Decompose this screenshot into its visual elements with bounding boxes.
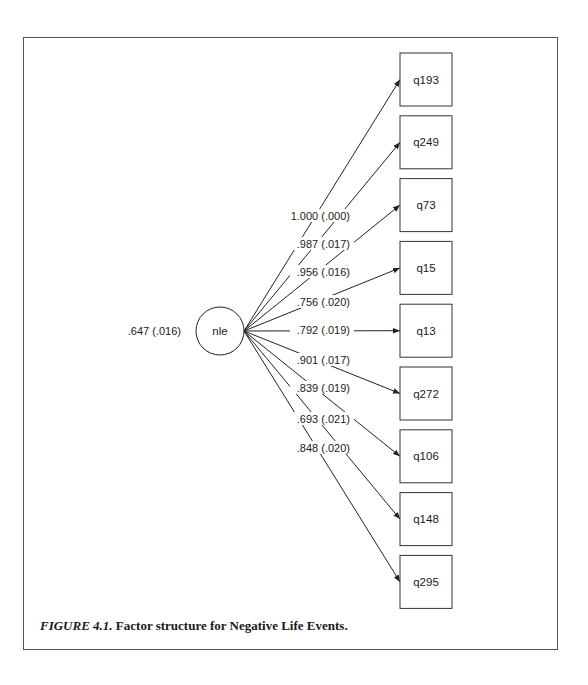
path-diagram: 1.000 (.000).987 (.017).956 (.016).756 (… [0, 0, 588, 685]
indicator-label-q193: q193 [413, 74, 439, 86]
loading-label-q193: 1.000 (.000) [291, 210, 350, 222]
loading-label-q295: .848 (.020) [297, 442, 350, 454]
indicator-label-q272: q272 [413, 388, 439, 400]
figure-caption: FIGURE 4.1. Factor structure for Negativ… [40, 618, 348, 634]
indicator-label-q13: q13 [416, 325, 435, 337]
loading-label-q15: .756 (.020) [297, 296, 350, 308]
indicator-label-q249: q249 [413, 136, 439, 148]
loading-label-q13: .792 (.019) [297, 324, 350, 336]
figure-caption-text: Factor structure for Negative Life Event… [116, 618, 348, 633]
latent-factor: nle [196, 307, 244, 355]
loading-label-q73: .956 (.016) [297, 266, 350, 278]
loading-path-q193 [244, 80, 400, 332]
indicator-label-q295: q295 [413, 576, 439, 588]
loading-label-q249: .987 (.017) [297, 238, 350, 250]
loading-label-q272: .901 (.017) [297, 354, 350, 366]
indicator-label-q15: q15 [416, 262, 435, 274]
loading-label-q106: .839 (.019) [297, 382, 350, 394]
loading-label-q148: .693 (.021) [297, 413, 350, 425]
latent-variance: .647 (.016) [128, 325, 181, 337]
indicator-label-q148: q148 [413, 513, 439, 525]
latent-label: nle [212, 325, 227, 337]
loading-path-q295 [244, 331, 400, 582]
figure-number: FIGURE 4.1. [40, 618, 113, 633]
indicator-label-q73: q73 [416, 199, 435, 211]
indicator-label-q106: q106 [413, 450, 439, 462]
